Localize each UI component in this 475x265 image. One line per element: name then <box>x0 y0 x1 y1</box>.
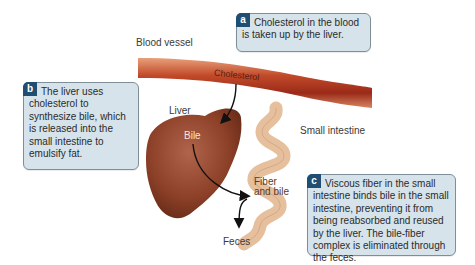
bile-label: Bile <box>184 130 201 141</box>
callout-c-badge: c <box>307 174 321 188</box>
callout-b-text: The liver uses cholesterol to synthesize… <box>29 86 126 159</box>
liver-label: Liver <box>169 105 191 116</box>
callout-a-text: Cholesterol in the blood is taken up by … <box>242 17 359 40</box>
callout-c-text: Viscous fiber in the small intestine bin… <box>313 178 449 263</box>
blood-vessel-label: Blood vessel <box>136 37 193 48</box>
fiber-label-line2: and bile <box>254 187 289 197</box>
small-intestine-label: Small intestine <box>300 125 365 136</box>
blood-vessel <box>138 58 372 108</box>
feces-label: Feces <box>223 236 250 247</box>
callout-a-badge: a <box>236 13 250 27</box>
callout-a: aCholesterol in the blood is taken up by… <box>236 13 371 52</box>
callout-b: bThe liver uses cholesterol to synthesiz… <box>23 82 139 170</box>
callout-c: cViscous fiber in the small intestine bi… <box>307 174 456 256</box>
callout-b-badge: b <box>23 82 37 96</box>
fiber-and-bile-label: Fiber and bile <box>254 177 289 197</box>
liver <box>146 109 241 219</box>
